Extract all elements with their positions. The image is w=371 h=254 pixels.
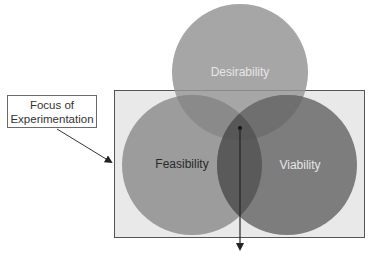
- viability-label: Viability: [279, 158, 320, 172]
- callout-arrow: [57, 129, 111, 162]
- focus-of-experimentation-callout: Focus of Experimentation: [7, 95, 97, 128]
- callout-line-2: Experimentation: [10, 112, 93, 126]
- feasibility-label: Feasibility: [155, 157, 208, 171]
- desirability-label: Desirability: [211, 65, 270, 79]
- callout-line-1: Focus of: [30, 98, 74, 112]
